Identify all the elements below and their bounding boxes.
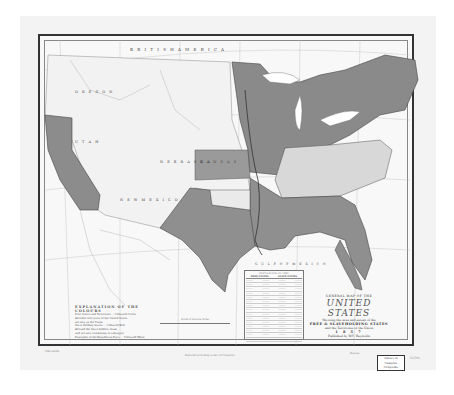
scale-line: [160, 323, 230, 324]
label-new-mexico: N E W M E X I C O: [120, 198, 179, 202]
colour-legend: EXPLANATION OF THE COLOURS Free States a…: [75, 305, 155, 340]
label-gulf-of-mexico: G U L F O F M E X I C O: [255, 262, 327, 266]
label-british-america: B R I T I S H A M E R I C A: [130, 47, 225, 52]
legend-heading: EXPLANATION OF THE COLOURS: [75, 305, 155, 313]
footer-right-note: Kansas: [350, 352, 359, 355]
legend-row: Principles of the Republican Party ... C…: [75, 336, 155, 340]
library-stamp: Library of Congress Geography: [377, 355, 405, 371]
stamp-line: Geography: [378, 366, 404, 371]
title-credit: Published by W.C. Reynolds: [308, 334, 390, 338]
label-nebraska: N E B R A S K A: [160, 160, 211, 164]
header-free-states: FREE STATES: [251, 275, 269, 278]
map-title-block: GENERAL MAP OF THE UNITED STATES Showing…: [308, 294, 390, 338]
label-oregon: O R E G O N: [75, 90, 114, 94]
footer-left-note: V.Reynolds: [45, 350, 59, 353]
margin-note: G3701: [410, 356, 420, 360]
population-table: POPULATION OF 1850 FREE STATES SLAVE STA…: [244, 270, 304, 340]
scale-label: Scale of Statute Miles: [160, 318, 230, 321]
scale-bar: Scale of Statute Miles: [160, 318, 230, 324]
header-slave-states: SLAVE STATES: [278, 275, 297, 278]
title-main: UNITED STATES: [308, 298, 390, 318]
footer-center-note: Entered according to Act of Congress: [185, 354, 235, 357]
label-utah: U T A H: [75, 140, 100, 144]
table-row: ————————————: [246, 338, 302, 342]
